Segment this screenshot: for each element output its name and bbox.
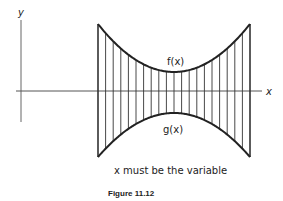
vertical-strips — [98, 24, 250, 157]
diagram-canvas: y x f(x) g(x) x must be the variable Fig… — [0, 0, 283, 201]
g-label: g(x) — [163, 124, 183, 135]
note-text: x must be the variable — [114, 165, 227, 176]
f-label: f(x) — [167, 56, 184, 67]
figure-caption: Figure 11.12 — [108, 189, 155, 198]
y-axis-label: y — [17, 7, 25, 18]
x-axis-label: x — [265, 86, 272, 97]
